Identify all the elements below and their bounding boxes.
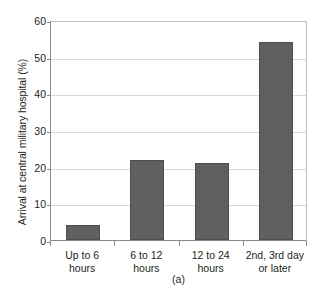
y-axis-tick-label: 30 [24,126,46,137]
x-axis-tick-mark [243,241,244,246]
y-axis-tick-labels: 0102030405060 [24,21,46,241]
x-axis-tick-mark [306,241,307,246]
x-axis-tick-label: 2nd, 3rd dayor later [239,249,311,274]
x-axis-tick-mark [114,241,115,246]
bar [130,160,164,240]
x-axis-tick-labels: Up to 6hours6 to 12hours12 to 24hours2nd… [50,249,307,275]
y-axis-tick-label: 60 [24,16,46,27]
x-axis-tick-label-line: 2nd, 3rd day [239,249,311,262]
x-axis-tick-label-line: 6 to 12 [110,249,182,262]
bar [195,163,229,240]
x-axis-tick-mark [179,241,180,246]
x-axis-tick-label: Up to 6hours [46,249,118,274]
x-axis-tick-mark [50,241,51,246]
y-axis-tick-label: 10 [24,199,46,210]
x-axis-tick-label: 12 to 24hours [175,249,247,274]
bars-group [51,22,306,240]
bar [259,42,293,240]
figure-caption: (a) [50,273,307,285]
x-axis-tick-label-line: Up to 6 [46,249,118,262]
x-axis-tick-label-line: 12 to 24 [175,249,247,262]
x-axis-tick-label: 6 to 12hours [110,249,182,274]
bar-chart-figure: Arrival at central military hospital (%)… [0,0,324,300]
plot-area [50,21,307,241]
x-axis-tick-marks [50,241,307,246]
y-axis-tick-label: 0 [24,236,46,247]
y-axis-tick-label: 40 [24,89,46,100]
y-axis-tick-label: 50 [24,52,46,63]
y-axis-tick-label: 20 [24,162,46,173]
bar [66,225,100,240]
